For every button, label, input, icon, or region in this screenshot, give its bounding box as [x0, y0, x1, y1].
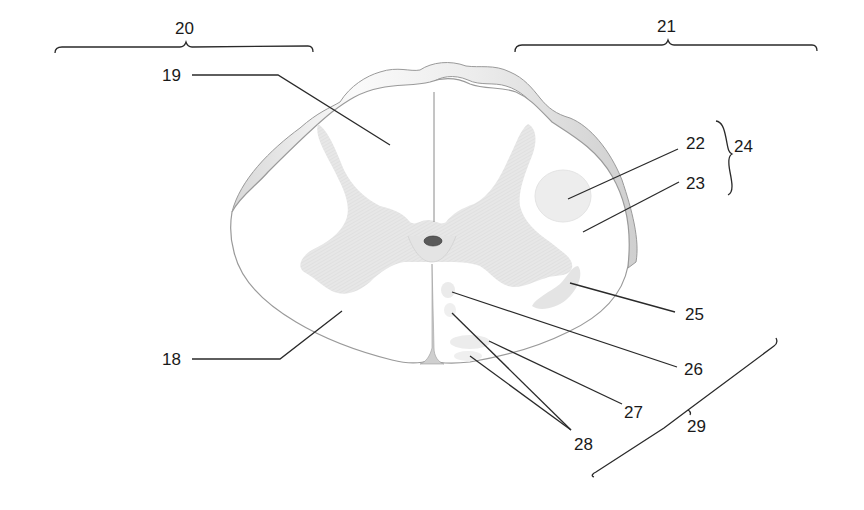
label-21: 21 — [657, 18, 676, 35]
label-22: 22 — [686, 135, 705, 152]
brace-24 — [716, 121, 732, 195]
label-26: 26 — [684, 361, 703, 378]
label-19: 19 — [162, 67, 181, 84]
label-28: 28 — [574, 436, 593, 453]
tract-26-region — [441, 282, 455, 298]
label-23: 23 — [686, 175, 705, 192]
leader-27 — [489, 341, 622, 404]
label-29: 29 — [687, 418, 706, 435]
label-27: 27 — [624, 404, 643, 421]
brace-21 — [515, 40, 817, 52]
tract-27-region — [450, 335, 490, 349]
label-18: 18 — [162, 351, 181, 368]
label-20: 20 — [175, 20, 194, 37]
brace-20 — [55, 42, 313, 53]
brace-29 — [592, 338, 777, 477]
central-canal — [424, 236, 442, 246]
tract-28b-region — [454, 351, 482, 361]
tract-22-region — [535, 170, 591, 222]
diagram-artwork — [0, 0, 864, 510]
leader-28b — [470, 356, 571, 430]
spinal-cord-diagram: 20 21 19 22 24 23 25 18 26 27 29 28 — [0, 0, 864, 510]
label-24: 24 — [734, 138, 753, 155]
label-25: 25 — [685, 306, 704, 323]
